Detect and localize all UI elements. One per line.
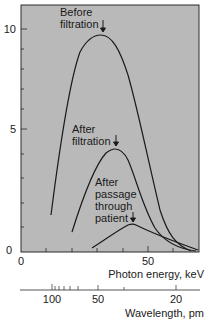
annotation-after-patient-line1: After (95, 176, 119, 188)
y-tick-label-10: 10 (4, 23, 16, 35)
annotation-after-patient-line2: passage (95, 188, 137, 200)
y-tick-label-5: 5 (10, 123, 16, 135)
wavelength-tick-50: 50 (92, 293, 104, 305)
annotation-after-patient-line3: through (95, 200, 132, 212)
annotation-before-line1: Before (60, 6, 92, 18)
y-tick-label-0: 0 (6, 244, 12, 256)
annotation-before-line2: filtration (60, 18, 99, 30)
wavelength-tick-20: 20 (170, 293, 182, 305)
wavelength-tick-100: 100 (43, 293, 61, 305)
spectrum-chart: 10 5 0 0 50 Photon energy, keV Before fi… (0, 0, 212, 324)
x-tick-label-0: 0 (18, 255, 24, 267)
annotation-after-patient-line4: patient (95, 212, 128, 224)
x-axis-label: Photon energy, keV (108, 268, 204, 280)
wavelength-axis-ticks (52, 284, 176, 290)
annotation-after-filtration-line1: After (72, 123, 96, 135)
x-tick-label-50: 50 (142, 255, 154, 267)
annotation-after-filtration-line2: filtration (72, 135, 111, 147)
wavelength-axis-label: Wavelength, pm (125, 307, 204, 319)
